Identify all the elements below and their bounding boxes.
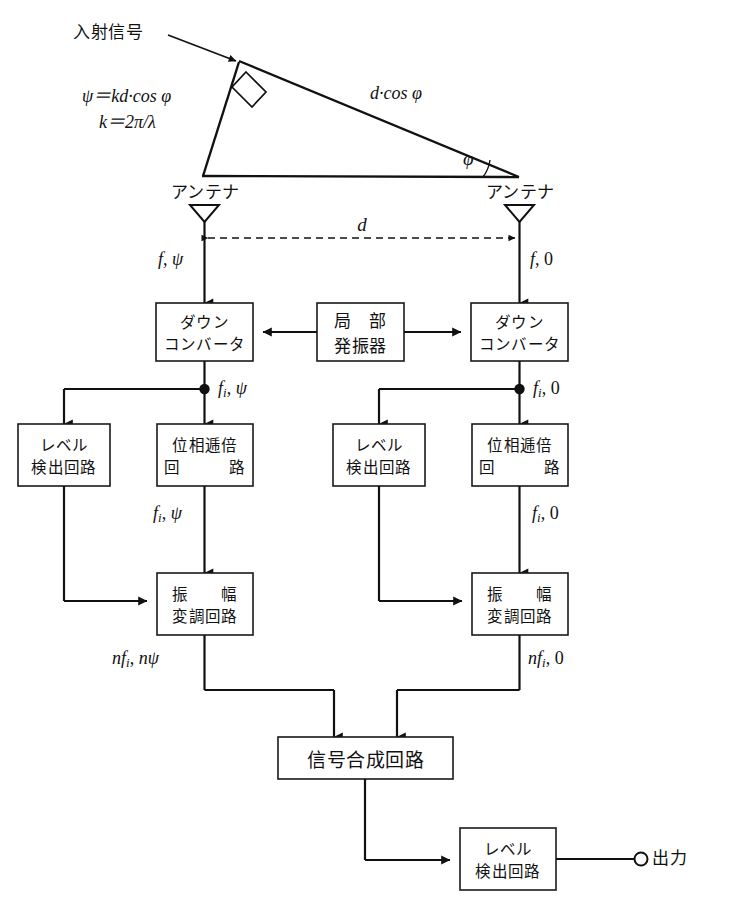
box-down-converter-right [471,303,568,361]
comma: , [162,503,171,523]
signal-label-mod-out-left: nfi, nψ [112,648,159,670]
multiplier-symbol: n [528,648,537,668]
phase-symbol: 0 [555,648,564,668]
box-level-detect-right [333,424,425,486]
phase-symbol: 0 [551,378,560,398]
box-phase-multiplier-left [157,424,253,486]
box-level-detect-output [460,828,556,890]
diagram-canvas: 入射信号 ψ＝kd·cos φ k＝2π/λ d·cos φ φ アンテナ アン… [0,0,733,909]
antenna-right-label: アンテナ [486,182,555,202]
box-down-converter-left [156,303,253,361]
path-difference-line [239,61,519,177]
if-bus-right-group [379,361,525,424]
signal-label-antenna-out-left: f, ψ [158,249,183,270]
box-amp-modulator-left [157,573,253,635]
antenna-left-group [190,205,219,303]
multiplier-symbol: n [112,648,121,668]
antenna-spacing-label: d [357,214,367,236]
triangle-left-leg [203,62,239,176]
phase-symbol: nψ [139,648,159,668]
comma: , [542,378,551,398]
signal-label-if-right: fi, 0 [533,378,560,400]
box-phase-multiplier-right [472,424,568,486]
box-amp-modulator-right [472,573,568,635]
combiner-input-group [205,635,520,737]
junction-dot-if-right [514,384,524,394]
antenna-right-icon [505,205,534,222]
phi-angle-label: φ [463,148,474,170]
antenna-left-icon [190,205,219,222]
comma: , [227,378,236,398]
formula-k: k＝2π/λ [99,112,156,133]
junction-dot-if-left [199,384,209,394]
output-chain-group [365,779,648,890]
diagram-vector-layer [0,0,733,909]
signal-label-mod-out-right: nfi, 0 [528,648,564,670]
antenna-left-label: アンテナ [171,182,240,202]
phase-symbol: 0 [544,249,553,269]
triangle-baseline [202,176,519,177]
comma: , [546,648,555,668]
signal-label-if-left: fi, ψ [218,378,247,400]
comma: , [163,249,172,269]
signal-label-mult-out-right: fi, 0 [532,503,559,525]
incident-signal-label: 入射信号 [73,22,143,42]
output-label: 出力 [652,848,687,868]
box-local-oscillator [317,303,404,361]
box-signal-combiner [278,737,453,779]
path-difference-label: d·cos φ [370,83,422,104]
phase-symbol: ψ [236,378,247,398]
phase-symbol: 0 [550,503,559,523]
formula-psi: ψ＝kd·cos φ [82,86,171,107]
phase-symbol: ψ [172,249,183,269]
comma: , [130,648,139,668]
comma: , [541,503,550,523]
phase-symbol: ψ [171,503,182,523]
comma: , [535,249,544,269]
signal-label-antenna-out-right: f, 0 [530,249,553,270]
signal-label-mult-out-left: fi, ψ [153,503,182,525]
if-bus-left-group [64,361,210,424]
output-terminal-node [635,853,648,866]
right-angle-marker [232,72,266,107]
box-level-detect-left [18,424,110,486]
incident-signal-arrow [168,35,236,61]
